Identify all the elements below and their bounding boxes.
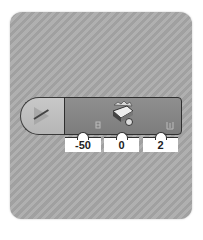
input-connector <box>77 132 89 140</box>
start-block[interactable] <box>20 97 66 135</box>
steering-input[interactable]: 0 <box>104 137 139 152</box>
rotations-value: 2 <box>157 139 163 151</box>
large-motor-icon <box>108 99 138 127</box>
power-icon <box>94 121 102 130</box>
steering-value: 0 <box>118 139 124 151</box>
input-connector <box>155 132 167 140</box>
rotations-input[interactable]: 2 <box>143 137 178 152</box>
input-connector <box>116 132 128 140</box>
block-inputs: -50 0 2 <box>65 137 179 152</box>
rotations-icon <box>166 121 174 130</box>
power-value: -50 <box>75 139 91 151</box>
play-icon <box>34 107 49 125</box>
power-input[interactable]: -50 <box>65 137 101 152</box>
